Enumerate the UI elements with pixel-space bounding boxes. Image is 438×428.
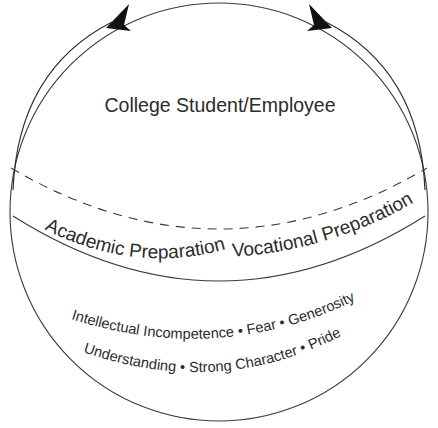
band-label-vocational: Vocational Preparation xyxy=(231,187,416,260)
attribute-line-1-text: Intellectual Incompetence • Fear • Gener… xyxy=(70,288,357,342)
diagram-canvas: College Student/Employee Academic Prepar… xyxy=(0,0,438,428)
arrowhead-up-left-icon xyxy=(307,4,332,31)
arrowhead-up-right-icon xyxy=(106,4,131,31)
band-label-academic-text: Academic Preparation xyxy=(43,214,227,262)
diagram-title-text: College Student/Employee xyxy=(104,94,335,116)
diagram-root: College Student/Employee Academic Prepar… xyxy=(0,0,438,428)
left-arrow-shaft xyxy=(13,22,112,190)
diagram-title: College Student/Employee xyxy=(104,94,335,116)
band-label-academic: Academic Preparation xyxy=(43,214,227,262)
attribute-line-1: Intellectual Incompetence • Fear • Gener… xyxy=(70,288,357,342)
band-label-vocational-text: Vocational Preparation xyxy=(231,187,416,260)
right-arrow-shaft xyxy=(326,22,425,190)
